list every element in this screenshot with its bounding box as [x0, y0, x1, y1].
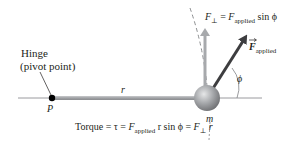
f-perp-sub: ⊥ — [211, 17, 218, 25]
torque-f-sub: applied — [135, 127, 156, 135]
f-applied-sub: applied — [256, 47, 277, 55]
hinge-pointer-line — [40, 72, 51, 95]
f-applied-rhs-sub: applied — [234, 17, 255, 25]
mass-ball — [194, 85, 220, 111]
pivot-point-label: (pivot point) — [20, 60, 76, 73]
f-perp-eq: = — [218, 11, 229, 22]
f-applied-label: Fapplied — [248, 39, 277, 56]
torque-diagram: Hinge (pivot point) P r m ϕ F⊥ = Fapplie… — [0, 0, 297, 150]
pivot-dot — [49, 95, 55, 101]
pivot-label: P — [46, 103, 53, 114]
radius-label: r — [121, 84, 125, 95]
hinge-label: Hinge — [21, 47, 48, 59]
f-perp-rhs-tail: sin ϕ — [255, 11, 277, 22]
f-perp-equation: F⊥ = Fapplied sin ϕ — [204, 11, 277, 25]
svg-text:Fapplied: Fapplied — [248, 41, 277, 55]
torque-fperp-sub: ⊥ — [200, 127, 207, 135]
torque-tail: r — [206, 121, 213, 132]
rod — [52, 96, 202, 100]
torque-equation: Torque = τ = Fapplied r sin ϕ = F⊥ r — [75, 121, 213, 135]
torque-prefix: Torque = τ = — [75, 121, 128, 132]
torque-mid: r sin ϕ = — [155, 121, 193, 132]
angle-label: ϕ — [237, 73, 242, 84]
